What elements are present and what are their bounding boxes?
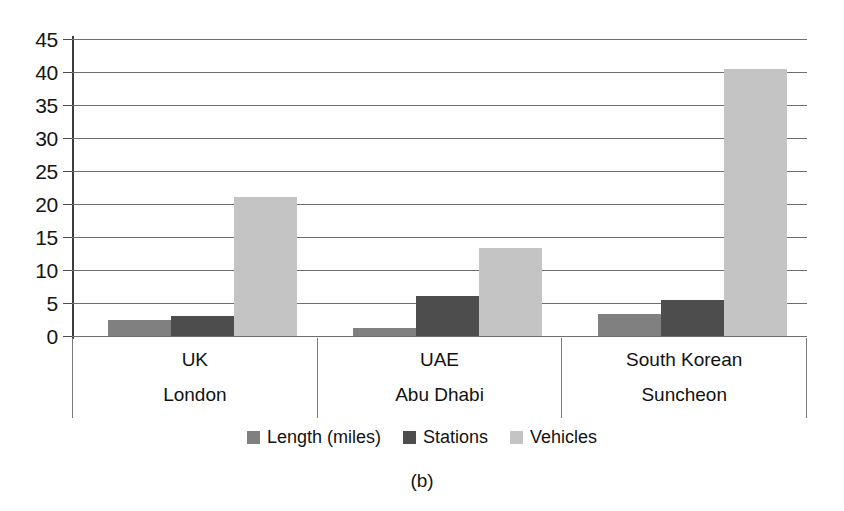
y-axis-tick-label: 15 <box>35 227 58 248</box>
bar <box>353 328 416 336</box>
legend-item: Stations <box>403 428 488 446</box>
y-axis-tick <box>63 105 72 106</box>
y-axis-tick-label: 45 <box>35 29 58 50</box>
bar <box>108 320 171 337</box>
figure-caption: (b) <box>0 470 844 492</box>
y-axis-tick <box>63 204 72 205</box>
y-axis-tick <box>63 237 72 238</box>
legend-swatch-icon <box>510 431 523 444</box>
category-cell: South KoreanSuncheon <box>561 338 807 418</box>
bar <box>416 296 479 336</box>
chart-legend: Length (miles)StationsVehicles <box>0 428 844 446</box>
y-axis-tick-label: 35 <box>35 95 58 116</box>
bar <box>724 69 787 336</box>
bar <box>234 197 297 336</box>
bar-group <box>317 39 562 336</box>
bar <box>171 316 234 336</box>
y-axis-tick-label: 10 <box>35 260 58 281</box>
category-cell: UKLondon <box>72 338 317 418</box>
category-city-label: Suncheon <box>641 385 727 404</box>
y-axis-tick <box>63 270 72 271</box>
legend-item: Length (miles) <box>247 428 381 446</box>
category-label-table: UKLondonUAEAbu DhabiSouth KoreanSuncheon <box>72 338 807 418</box>
y-axis-tick <box>63 39 72 40</box>
plot-area: 454035302520151050 <box>72 39 807 336</box>
y-axis-tick <box>63 72 72 73</box>
y-axis-tick-label: 40 <box>35 62 58 83</box>
figure-b: 454035302520151050 UKLondonUAEAbu DhabiS… <box>0 0 844 511</box>
legend-label: Vehicles <box>530 428 597 446</box>
bar-group <box>72 39 317 336</box>
bars-layer <box>72 39 807 336</box>
y-axis-tick-label: 0 <box>47 326 58 347</box>
y-axis-tick <box>63 336 72 337</box>
y-axis-tick-label: 25 <box>35 161 58 182</box>
bar <box>479 248 542 336</box>
bar-group <box>562 39 807 336</box>
legend-label: Stations <box>423 428 488 446</box>
category-city-label: London <box>163 385 226 404</box>
legend-label: Length (miles) <box>267 428 381 446</box>
y-axis-tick-label: 20 <box>35 194 58 215</box>
category-country-label: UK <box>182 350 208 369</box>
category-country-label: UAE <box>420 350 459 369</box>
y-axis-tick <box>63 303 72 304</box>
bar <box>661 300 724 336</box>
category-city-label: Abu Dhabi <box>395 385 484 404</box>
y-axis-tick <box>63 171 72 172</box>
category-country-label: South Korean <box>626 350 742 369</box>
gridline <box>72 336 807 337</box>
legend-item: Vehicles <box>510 428 597 446</box>
category-cell: UAEAbu Dhabi <box>317 338 562 418</box>
y-axis-tick <box>63 138 72 139</box>
y-axis-tick-label: 30 <box>35 128 58 149</box>
legend-swatch-icon <box>403 431 416 444</box>
legend-swatch-icon <box>247 431 260 444</box>
y-axis-tick-label: 5 <box>47 293 58 314</box>
bar <box>598 314 661 336</box>
